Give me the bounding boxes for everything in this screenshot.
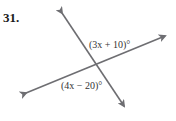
angle-label-upper: (3x + 10)° [89, 39, 130, 51]
intersecting-lines-figure: 31. (3x + 10)° (4x − 20)° [0, 0, 176, 121]
problem-number: 31. [3, 10, 19, 25]
angle-label-lower: (4x − 20)° [61, 80, 102, 92]
steep-line [62, 13, 124, 106]
